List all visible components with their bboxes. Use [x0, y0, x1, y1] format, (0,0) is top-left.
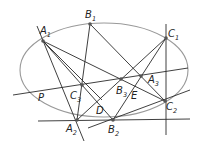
- label-A2: A2: [65, 123, 77, 137]
- line-0: [37, 26, 84, 141]
- label-D: D: [96, 105, 104, 116]
- construction-lines: [13, 24, 190, 141]
- label-B1: B1: [85, 9, 96, 23]
- line-4: [77, 24, 90, 120]
- pascal-diagram: A1B1C1A2B2C2C3B3A3DEP: [0, 0, 209, 143]
- point-B3: [119, 77, 123, 81]
- label-E: E: [131, 90, 138, 101]
- label-P: P: [38, 92, 45, 103]
- label-A3: A3: [147, 74, 159, 88]
- point-A3: [139, 74, 143, 78]
- point-A2: [75, 118, 79, 122]
- line-5: [90, 24, 165, 101]
- line-9: [13, 68, 188, 95]
- intersection-points: [41, 22, 168, 122]
- point-B1: [88, 22, 92, 26]
- point-B2: [111, 118, 115, 122]
- label-C3: C3: [70, 90, 81, 104]
- ellipse-curve: [20, 23, 188, 117]
- conic-ellipse: [20, 23, 188, 117]
- label-B3: B3: [116, 85, 127, 99]
- line-2: [43, 41, 165, 101]
- label-C2: C2: [166, 101, 177, 115]
- label-B2: B2: [108, 124, 119, 138]
- label-C1: C1: [168, 28, 179, 42]
- point-C3: [80, 83, 84, 87]
- point-A1: [41, 39, 45, 43]
